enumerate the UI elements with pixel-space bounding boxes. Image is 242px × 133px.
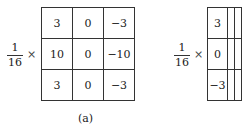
matrix-row: 3 0 −3 [42,8,135,39]
matrix-cell: 3 [42,70,73,101]
matrix-cell [227,39,234,70]
scale-fraction-b: 1 16 [174,42,190,69]
fraction-denominator: 16 [7,57,23,69]
matrix-cell: −3 [104,8,135,39]
matrix-cell [234,8,241,39]
multiply-sign-a: × [27,48,36,61]
fraction-numerator: 1 [7,42,23,54]
matrix-cell: −3 [104,70,135,101]
matrix-cell: −3 [208,70,228,101]
matrix-cell: 0 [208,39,228,70]
matrix-cell: 0 [73,8,104,39]
matrix-cell: 3 [42,8,73,39]
fraction-denominator: 16 [174,57,190,69]
matrix-row: 10 0 −10 [42,39,135,70]
figure-caption-a: (a) [78,112,93,125]
matrix-cell: −10 [104,39,135,70]
matrix-cell [234,70,241,101]
matrix-row: 3 0 −3 [42,70,135,101]
matrix-cell [227,70,234,101]
matrix-cell: 0 [73,39,104,70]
fraction-numerator: 1 [174,42,190,54]
matrix-row: 0 [208,39,242,70]
scale-fraction-a: 1 16 [7,42,23,69]
matrix-cell: 3 [208,8,228,39]
matrix-cell [234,39,241,70]
kernel-matrix-b: 3 0 −3 [207,7,242,101]
kernel-matrix-a: 3 0 −3 10 0 −10 3 0 −3 [41,7,135,101]
matrix-cell: 10 [42,39,73,70]
matrix-cell: 0 [73,70,104,101]
matrix-cell [227,8,234,39]
multiply-sign-b: × [194,48,203,61]
matrix-row: 3 [208,8,242,39]
matrix-row: −3 [208,70,242,101]
